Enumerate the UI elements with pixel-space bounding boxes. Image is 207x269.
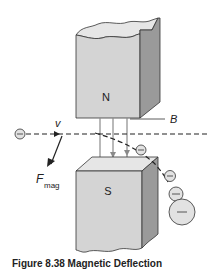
velocity-arrowhead bbox=[54, 131, 60, 137]
deflected-electron-4 bbox=[169, 199, 195, 225]
north-magnet: N bbox=[76, 18, 160, 118]
figure-caption: Figure 8.38 Magnetic Deflection bbox=[12, 258, 202, 269]
deflected-electron-1 bbox=[136, 145, 146, 155]
deflected-electron-2 bbox=[165, 171, 176, 182]
magnetic-force-arrow bbox=[47, 136, 62, 167]
velocity-label: v bbox=[55, 117, 62, 129]
south-pole-label: S bbox=[104, 185, 111, 197]
south-magnet: S bbox=[76, 157, 158, 252]
north-pole-label: N bbox=[102, 91, 110, 103]
force-subscript-label: mag bbox=[44, 181, 60, 190]
force-label: F bbox=[36, 172, 44, 186]
incoming-electron bbox=[15, 129, 25, 139]
field-label: B bbox=[170, 113, 177, 125]
